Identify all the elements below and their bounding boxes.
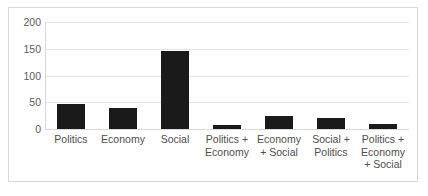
bar-slot — [305, 22, 357, 129]
bar[interactable] — [317, 118, 345, 129]
y-tick-label: 50 — [9, 97, 41, 108]
bar-slot — [357, 22, 409, 129]
x-axis-label: Economy — [97, 133, 149, 146]
chart-container: 050100150200 PoliticsEconomySocialPoliti… — [8, 7, 418, 182]
bar-slot — [201, 22, 253, 129]
bars-layer — [45, 22, 409, 129]
bar-slot — [253, 22, 305, 129]
bar[interactable] — [265, 116, 293, 129]
bar[interactable] — [57, 104, 85, 129]
x-axis-label: Social + Politics — [305, 133, 357, 158]
bar-slot — [45, 22, 97, 129]
x-axis-label: Social — [149, 133, 201, 146]
bar[interactable] — [369, 124, 397, 129]
y-tick-label: 0 — [9, 124, 41, 135]
x-axis-category-labels: PoliticsEconomySocialPolitics + EconomyE… — [45, 133, 409, 181]
y-axis-tick-labels: 050100150200 — [9, 22, 41, 129]
bar-slot — [149, 22, 201, 129]
y-tick-label: 150 — [9, 44, 41, 55]
bar[interactable] — [161, 51, 189, 129]
x-axis-label: Politics — [45, 133, 97, 146]
gridline-0 — [45, 129, 409, 130]
x-axis-label: Economy + Social — [253, 133, 305, 158]
bar[interactable] — [109, 108, 137, 129]
y-tick-label: 200 — [9, 17, 41, 28]
y-tick-label: 100 — [9, 70, 41, 81]
x-axis-label: Politics + Economy — [201, 133, 253, 158]
bar-slot — [97, 22, 149, 129]
x-axis-label: Politics + Economy + Social — [357, 133, 409, 171]
bar[interactable] — [213, 125, 241, 129]
